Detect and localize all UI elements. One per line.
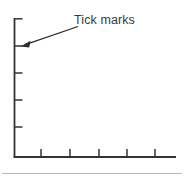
annotation-arrow-shaft [26, 27, 78, 45]
annotation-arrow [21, 27, 79, 48]
y-axis-tick-group [15, 19, 23, 127]
x-axis-tick-group [41, 149, 155, 156]
tick-marks-figure: Tick marks [0, 0, 184, 179]
tick-marks-annotation-label: Tick marks [74, 13, 135, 28]
annotation-arrow-head [21, 41, 31, 48]
